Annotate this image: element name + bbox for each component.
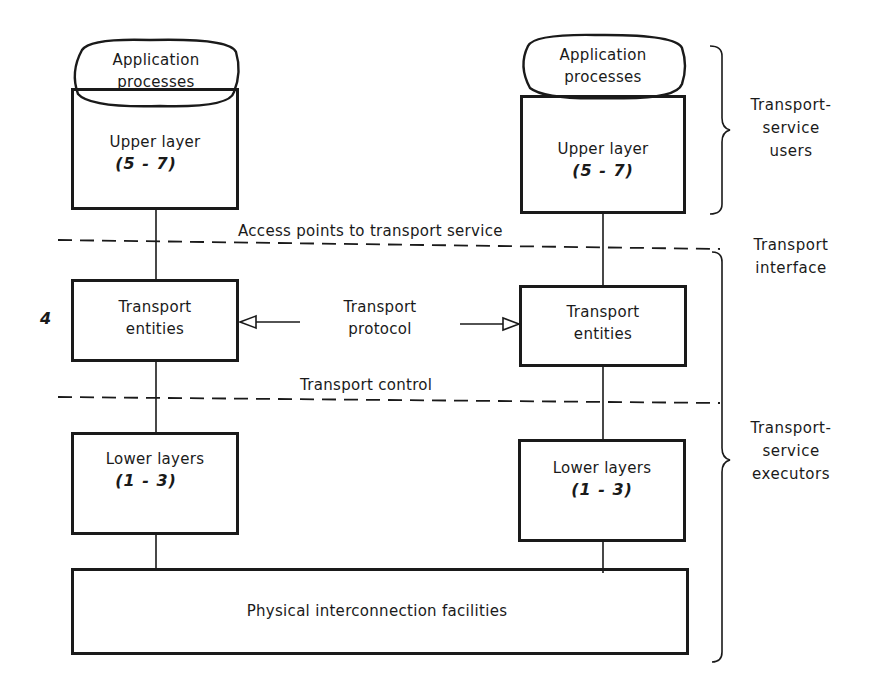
label-line: Application: [525, 44, 681, 66]
layer-range: (1 - 3): [518, 479, 686, 501]
transport-control-label: Transport control: [300, 374, 432, 396]
label-line: processes: [525, 66, 681, 88]
side-label-executors: Transport- service executors: [731, 417, 851, 486]
label-line: Transport-: [731, 417, 851, 440]
layer-range: (5 - 7): [53, 153, 239, 175]
label-line: Transport: [71, 296, 239, 318]
label-line: Application: [80, 49, 232, 71]
layer-number: 4: [36, 308, 56, 330]
side-label-users: Transport- service users: [736, 94, 846, 163]
label-line: Transport-: [736, 94, 846, 117]
label-line: executors: [731, 463, 851, 486]
label-line: Transport: [320, 296, 440, 318]
label-line: Transport: [736, 234, 846, 257]
brace-icons: [710, 46, 730, 662]
left-upper-layer-label: Upper layer (5 - 7): [71, 131, 239, 175]
label-line: protocol: [320, 318, 440, 340]
label-line: service: [731, 440, 851, 463]
left-lower-layers-label: Lower layers (1 - 3): [71, 448, 239, 492]
label-line: interface: [736, 257, 846, 280]
label-line: entities: [71, 318, 239, 340]
label-line: users: [736, 140, 846, 163]
label-line: entities: [519, 323, 687, 345]
label-line: service: [736, 117, 846, 140]
label-line: Transport: [519, 301, 687, 323]
label-line: Lower layers: [71, 448, 239, 470]
right-app-processes-label: Application processes: [525, 44, 681, 88]
access-points-label: Access points to transport service: [238, 220, 503, 242]
right-upper-layer-label: Upper layer (5 - 7): [520, 138, 686, 182]
label-line: Lower layers: [518, 457, 686, 479]
label-line: Upper layer: [71, 131, 239, 153]
right-lower-layers-label: Lower layers (1 - 3): [518, 457, 686, 501]
physical-facilities-label: Physical interconnection facilities: [71, 600, 683, 622]
right-transport-entities-label: Transport entities: [519, 301, 687, 345]
label-line: Upper layer: [520, 138, 686, 160]
layer-range: (1 - 3): [53, 470, 239, 492]
left-transport-entities-label: Transport entities: [71, 296, 239, 340]
layer-range: (5 - 7): [520, 160, 686, 182]
left-app-processes-label: Application processes: [80, 49, 232, 93]
side-label-interface: Transport interface: [736, 234, 846, 280]
transport-protocol-label: Transport protocol: [320, 296, 440, 340]
label-line: processes: [80, 71, 232, 93]
